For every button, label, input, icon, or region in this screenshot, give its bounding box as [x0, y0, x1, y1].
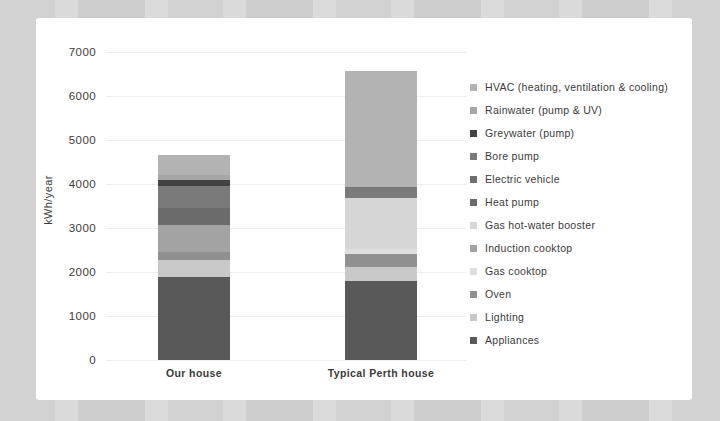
- chart-panel: kWh/year 01000200030004000500060007000Ou…: [36, 18, 692, 400]
- stacked-bar-1: [345, 70, 417, 360]
- legend-label: HVAC (heating, ventilation & cooling): [485, 82, 668, 93]
- legend-label: Gas cooktop: [485, 266, 547, 277]
- legend-item-11: Appliances: [470, 335, 668, 346]
- legend-label: Rainwater (pump & UV): [485, 105, 602, 116]
- legend-item-6: Gas hot-water booster: [470, 220, 668, 231]
- y-tick-label-4000: 4000: [44, 178, 96, 190]
- y-tick-label-3000: 3000: [44, 222, 96, 234]
- y-tick-label-0: 0: [44, 354, 96, 366]
- legend-swatch-icon: [470, 245, 477, 252]
- legend-label: Greywater (pump): [485, 128, 574, 139]
- legend-label: Heat pump: [485, 197, 539, 208]
- legend: HVAC (heating, ventilation & cooling)Rai…: [470, 82, 668, 346]
- legend-item-4: Electric vehicle: [470, 174, 668, 185]
- bar-segment-0-9: [158, 252, 230, 260]
- legend-item-8: Gas cooktop: [470, 266, 668, 277]
- legend-item-10: Lighting: [470, 312, 668, 323]
- bar-segment-1-3: [345, 187, 417, 198]
- bar-segment-0-5: [158, 208, 230, 226]
- legend-swatch-icon: [470, 199, 477, 206]
- y-tick-label-1000: 1000: [44, 310, 96, 322]
- bar-segment-1-10: [345, 267, 417, 281]
- gridline-7000: [106, 52, 466, 53]
- legend-label: Appliances: [485, 335, 539, 346]
- legend-swatch-icon: [470, 153, 477, 160]
- legend-label: Gas hot-water booster: [485, 220, 595, 231]
- bar-segment-1-0: [345, 71, 417, 188]
- legend-label: Oven: [485, 289, 511, 300]
- gridline-0: [106, 360, 466, 361]
- stacked-bar-0: [158, 155, 230, 360]
- x-category-label-0: Our house: [124, 367, 264, 379]
- y-tick-label-7000: 7000: [44, 46, 96, 58]
- bar-segment-1-9: [345, 254, 417, 267]
- legend-item-3: Bore pump: [470, 151, 668, 162]
- legend-swatch-icon: [470, 314, 477, 321]
- legend-swatch-icon: [470, 176, 477, 183]
- bar-segment-1-11: [345, 281, 417, 360]
- bar-segment-0-0: [158, 155, 230, 175]
- bar-segment-1-6: [345, 198, 417, 249]
- legend-swatch-icon: [470, 291, 477, 298]
- legend-swatch-icon: [470, 268, 477, 275]
- y-tick-label-5000: 5000: [44, 134, 96, 146]
- legend-item-7: Induction cooktop: [470, 243, 668, 254]
- bar-segment-0-7: [158, 225, 230, 252]
- bar-segment-0-11: [158, 277, 230, 360]
- legend-item-5: Heat pump: [470, 197, 668, 208]
- bar-segment-0-3: [158, 186, 230, 208]
- legend-swatch-icon: [470, 107, 477, 114]
- legend-item-2: Greywater (pump): [470, 128, 668, 139]
- legend-label: Electric vehicle: [485, 174, 560, 185]
- legend-item-1: Rainwater (pump & UV): [470, 105, 668, 116]
- legend-item-9: Oven: [470, 289, 668, 300]
- x-category-label-1: Typical Perth house: [311, 367, 451, 379]
- legend-swatch-icon: [470, 130, 477, 137]
- legend-swatch-icon: [470, 337, 477, 344]
- legend-label: Induction cooktop: [485, 243, 572, 254]
- legend-swatch-icon: [470, 84, 477, 91]
- y-tick-label-2000: 2000: [44, 266, 96, 278]
- legend-item-0: HVAC (heating, ventilation & cooling): [470, 82, 668, 93]
- bar-segment-0-10: [158, 260, 230, 277]
- y-tick-label-6000: 6000: [44, 90, 96, 102]
- legend-label: Lighting: [485, 312, 524, 323]
- legend-swatch-icon: [470, 222, 477, 229]
- legend-label: Bore pump: [485, 151, 539, 162]
